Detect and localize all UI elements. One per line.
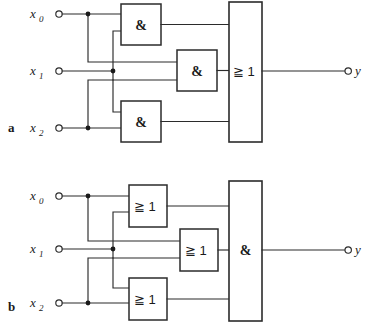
panel-a: x 0 x 1 x 2 & & & ≧ 1 y a [8, 2, 361, 142]
panel-b-input-terminals [56, 193, 62, 306]
gate-label-b-or-mid: ≧ 1 [185, 243, 207, 258]
junction-dot-x0 [86, 12, 91, 17]
junction-dot-b-x0 [86, 194, 91, 199]
output-terminal-y-icon[interactable] [345, 68, 351, 74]
gate-label-b-or-bot: ≧ 1 [134, 292, 156, 307]
input-label-b-x1: x [29, 241, 36, 256]
panel-label-a: a [8, 120, 15, 135]
input-subscript-b-x2: 2 [39, 303, 44, 313]
wire-b-x2-to-mid-gate [88, 258, 113, 303]
gate-label-a-or-output: ≧ 1 [233, 64, 255, 79]
wire-x1-to-bot-gate [113, 71, 121, 112]
junction-dot-b-x2 [86, 301, 91, 306]
input-terminal-x2-icon[interactable] [56, 125, 62, 131]
gate-label-b-or-top: ≧ 1 [134, 199, 156, 214]
input-terminal-x1-icon[interactable] [56, 68, 62, 74]
input-subscript-b-x1: 1 [39, 249, 44, 259]
input-terminal-x0-b-icon[interactable] [56, 193, 62, 199]
input-terminal-x2-b-icon[interactable] [56, 300, 62, 306]
figure-sheet: x 0 x 1 x 2 & & & ≧ 1 y a [0, 0, 380, 335]
input-label-x2: x [29, 120, 36, 135]
input-label-x0: x [29, 6, 36, 21]
junction-dot-x2 [86, 126, 91, 131]
wire-x2-to-mid-gate [88, 80, 113, 128]
output-terminal-y-b-icon[interactable] [345, 247, 351, 253]
output-label-y-b: y [353, 242, 361, 257]
gate-label-a-and-top: & [135, 18, 147, 33]
input-label-x1: x [29, 63, 36, 78]
panel-a-input-terminals [56, 11, 62, 131]
junction-dot-x1 [111, 69, 116, 74]
wire-b-x1-to-top-gate [113, 212, 129, 249]
input-subscript-x2: 2 [39, 128, 44, 138]
logic-circuit-diagram: x 0 x 1 x 2 & & & ≧ 1 y a [0, 0, 380, 335]
panel-b: x 0 x 1 x 2 ≧ 1 ≧ 1 ≧ 1 & y b [8, 181, 361, 321]
output-label-y-a: y [353, 63, 361, 78]
input-label-b-x0: x [29, 188, 36, 203]
input-terminal-x1-b-icon[interactable] [56, 246, 62, 252]
gate-label-a-and-bot: & [135, 115, 147, 130]
junction-dot-b-x1 [111, 247, 116, 252]
wire-b-x1-to-bot-gate [113, 249, 129, 288]
input-label-b-x2: x [29, 295, 36, 310]
gate-label-b-and-output: & [240, 243, 252, 258]
gate-label-a-and-mid: & [191, 64, 203, 79]
wire-x1-to-top-gate [113, 31, 121, 71]
input-terminal-x0-icon[interactable] [56, 11, 62, 17]
input-subscript-b-x0: 0 [39, 196, 44, 206]
input-subscript-x1: 1 [39, 71, 44, 81]
panel-label-b: b [8, 299, 15, 314]
input-subscript-x0: 0 [39, 14, 44, 24]
